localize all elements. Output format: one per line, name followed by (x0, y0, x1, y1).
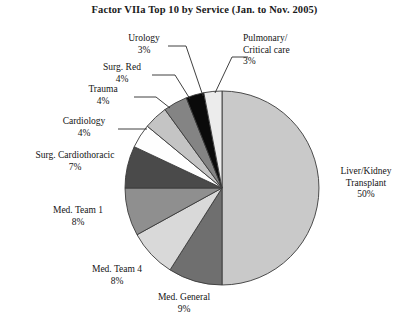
slice-label-surg-red-line1: Surg. Red (103, 62, 141, 72)
slice-label-cardiology-pct: 4% (53, 128, 115, 140)
slice-label-med-general: Med. General 9% (142, 292, 226, 315)
slice-label-med-general-line1: Med. General (158, 292, 210, 302)
slice-label-med-team-4-pct: 8% (76, 276, 158, 288)
slice-label-cardiology: Cardiology 4% (53, 116, 115, 139)
leader-line-trauma (134, 97, 170, 108)
slice-label-liver-kidney-pct: 50% (326, 189, 406, 201)
slice-label-urology: Urology 3% (120, 33, 168, 56)
leader-line-surg-red (152, 75, 190, 99)
slice-label-pulmonary-line1: Pulmonary/ (243, 33, 287, 43)
slice-label-pulmonary-line2: Critical care (243, 45, 290, 55)
pie-slice-liver-kidney-transplant (222, 91, 319, 285)
slice-label-med-team-1-line1: Med. Team 1 (53, 205, 103, 215)
slice-label-surg-cardiothoracic-line1: Surg. Cardiothoracic (36, 150, 115, 160)
slice-label-surg-red: Surg. Red 4% (94, 62, 150, 85)
pie-chart-figure: Factor VIIa Top 10 by Service (Jan. to N… (0, 0, 409, 330)
slice-label-liver-kidney: Liver/Kidney Transplant 50% (326, 166, 406, 201)
slice-label-med-team-1-pct: 8% (37, 217, 119, 229)
slice-label-surg-cardiothoracic: Surg. Cardiothoracic 7% (14, 150, 136, 173)
slice-label-med-team-4: Med. Team 4 8% (76, 264, 158, 287)
leader-line-urology (168, 46, 203, 96)
slice-label-med-general-pct: 9% (142, 304, 226, 316)
slice-label-med-team-1: Med. Team 1 8% (37, 205, 119, 228)
slice-label-trauma-line1: Trauma (88, 84, 117, 94)
slice-label-trauma-pct: 4% (75, 96, 131, 108)
slice-label-urology-pct: 3% (120, 45, 168, 57)
slice-label-urology-line1: Urology (128, 33, 160, 43)
slice-label-pulmonary-pct: 3% (243, 56, 290, 68)
slice-label-liver-kidney-line2: Transplant (346, 178, 386, 188)
slice-label-surg-cardiothoracic-pct: 7% (14, 162, 136, 174)
slice-label-liver-kidney-line1: Liver/Kidney (340, 166, 391, 176)
slice-label-trauma: Trauma 4% (75, 84, 131, 107)
slice-label-pulmonary: Pulmonary/ Critical care 3% (243, 33, 290, 68)
slice-label-med-team-4-line1: Med. Team 4 (92, 264, 142, 274)
slice-label-cardiology-line1: Cardiology (63, 116, 106, 126)
pie-slices-group (125, 91, 319, 285)
